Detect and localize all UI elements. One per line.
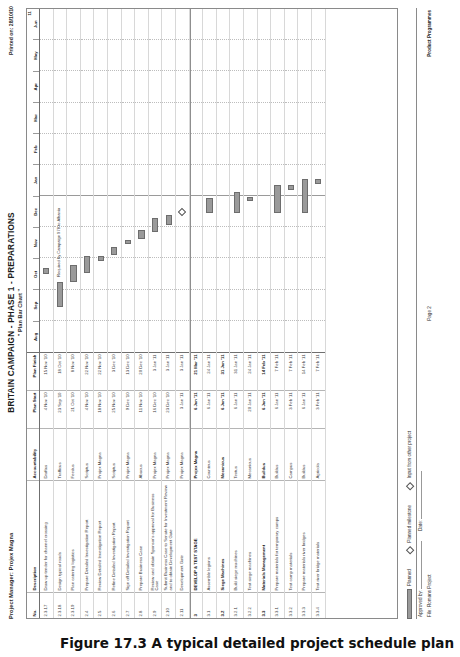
gantt-bar[interactable] (288, 185, 294, 189)
table-row[interactable]: 3.1Assemble legionsCounteus6 Jan '1124 J… (203, 9, 217, 618)
gridline (122, 320, 135, 321)
table-row[interactable]: 2.5Review Detailed Investigation ReportP… (94, 9, 108, 618)
row-gantt-area: Required by Campaign 978 to Albania (54, 9, 67, 352)
gridline (67, 70, 80, 71)
gantt-inner (122, 9, 135, 352)
gantt-bar[interactable] (43, 268, 49, 273)
gridline (162, 257, 175, 258)
gantt-inner (94, 9, 107, 352)
gantt-bar[interactable] (274, 185, 280, 213)
row-plan-finish: 3 Jan '11 (162, 352, 175, 390)
gantt-bar[interactable] (84, 256, 90, 273)
gantt-inner (149, 9, 162, 352)
gantt-bar[interactable] (234, 192, 240, 214)
row-plan-start: 6 Jan '11 (271, 390, 284, 428)
row-gantt-area (191, 9, 203, 352)
table-row[interactable]: 2.3.18Design typical roadsTrafficus23 Se… (54, 9, 68, 618)
row-number: 2.3.19 (67, 592, 80, 618)
date-field: Date: (418, 471, 423, 531)
gridline (54, 39, 67, 40)
gridline (135, 320, 148, 321)
row-description: Development Gate (176, 480, 189, 592)
gridline (81, 164, 94, 165)
row-plan-finish: 14 Feb '11 (258, 352, 271, 390)
gridline (191, 164, 203, 165)
row-plan-start: 20 Jan '11 (244, 390, 257, 428)
milestone-diamond[interactable] (178, 208, 186, 216)
table-row[interactable]: 2.3.17Draw up tender for channel crossin… (40, 9, 54, 618)
gridline (258, 195, 271, 196)
row-plan-start: 23 Sep '10 (54, 390, 67, 428)
gantt-bar[interactable] (247, 197, 253, 201)
table-row[interactable]: 2.10Submit Business Case to Senate for I… (162, 9, 176, 618)
row-description: DEVELOP & TEST STAGE (191, 480, 203, 592)
gridline (217, 39, 230, 40)
table-row[interactable]: 2.8Prepare Business CaseAbacus11 Nov '10… (135, 9, 149, 618)
gridline (94, 39, 107, 40)
legend-input: Input from other project (407, 431, 413, 489)
gantt-bar[interactable] (111, 247, 117, 255)
row-number: 2.9 (149, 592, 162, 618)
row-description: Review and obtain Sponsor's approval for… (149, 480, 162, 592)
gridline (312, 164, 325, 165)
gantt-bar[interactable] (138, 230, 144, 239)
table-row[interactable]: 3.2Siege MachinesMecanicus6 Jan '1131 Ja… (217, 9, 231, 618)
gridline (298, 257, 311, 258)
gantt-bar[interactable] (302, 179, 308, 214)
gantt-bar[interactable] (166, 215, 172, 225)
gridline (285, 226, 298, 227)
gridline (285, 257, 298, 258)
gridline (67, 133, 80, 134)
gridline (54, 70, 67, 71)
gridline (122, 102, 135, 103)
row-accountability: Counteus (203, 428, 216, 480)
gantt-bar[interactable] (98, 256, 104, 260)
table-row[interactable]: 3.3.2Test camp materialsCampus3 Feb '117… (285, 9, 299, 618)
gridline (108, 102, 121, 103)
gridline (258, 133, 271, 134)
row-number: 3.3.1 (271, 592, 284, 618)
table-row[interactable]: 2.6Refine Detailed Investigation ReportS… (108, 9, 122, 618)
table-row[interactable]: 3DEVELOP & TEST STAGEProjex Magna6 Jan '… (190, 9, 204, 618)
row-plan-start: 25 Nov '10 (108, 390, 121, 428)
table-row[interactable]: 2.3.19Plan catering logisticsFeedus21 Oc… (67, 9, 81, 618)
table-row[interactable]: 2.7Sign off Detailed Investigation Repor… (122, 9, 136, 618)
row-number: 3.2.1 (230, 592, 243, 618)
gridline (191, 39, 203, 40)
table-row[interactable]: 3.2.2Test siege machinesMecanicus20 Jan … (244, 9, 258, 618)
gridline (108, 164, 121, 165)
gridline (176, 39, 189, 40)
gantt-bar[interactable] (315, 179, 321, 184)
gridline (67, 164, 80, 165)
gridline (67, 39, 80, 40)
table-row[interactable]: 2.4Prepare Detailed Investigation Report… (81, 9, 95, 618)
table-row[interactable]: 2.11Development GateProjex Magna3 Jan '1… (176, 9, 190, 618)
gridline (108, 133, 121, 134)
gridline (217, 320, 230, 321)
gantt-chart-page: Project Manager: Projex Magna Printed on… (6, 4, 436, 621)
table-row[interactable]: 3.2.1Build siege machinesTextus6 Jan '11… (230, 9, 244, 618)
table-row[interactable]: 3.3.1Prepare materials for temporary cam… (271, 9, 285, 618)
table-row[interactable]: 3.3.4Test river bridge materialsAgricola… (312, 9, 326, 618)
table-row[interactable]: 3.3.3Prepare materials river bridgesBuil… (298, 9, 312, 618)
table-row[interactable]: 3.3Materials ManagementBuildus6 Jan '111… (258, 9, 272, 618)
year-label: 11 (28, 11, 33, 16)
page-title: BRITAIN CAMPAIGN - PHASE 1 - PREPARATION… (7, 4, 16, 621)
row-plan-start: 23 Dec '10 (162, 390, 175, 428)
row-description: Build siege machines (230, 480, 243, 592)
gantt-bar[interactable] (125, 240, 131, 244)
gantt-bar[interactable] (206, 198, 212, 214)
gridline (191, 289, 203, 290)
gantt-bar[interactable] (152, 218, 158, 233)
gantt-bar[interactable] (70, 265, 76, 282)
gantt-bar[interactable] (57, 282, 63, 307)
gridline (285, 164, 298, 165)
row-plan-finish: 22 Nov '10 (94, 352, 107, 390)
gridline (54, 102, 67, 103)
table-row[interactable]: 2.9Review and obtain Sponsor's approval … (149, 9, 163, 618)
gridline (203, 39, 216, 40)
row-accountability: Projex Magna (94, 428, 107, 480)
gridline (191, 226, 203, 227)
gridline (54, 133, 67, 134)
approved-by-label: Approved by: (418, 590, 423, 617)
